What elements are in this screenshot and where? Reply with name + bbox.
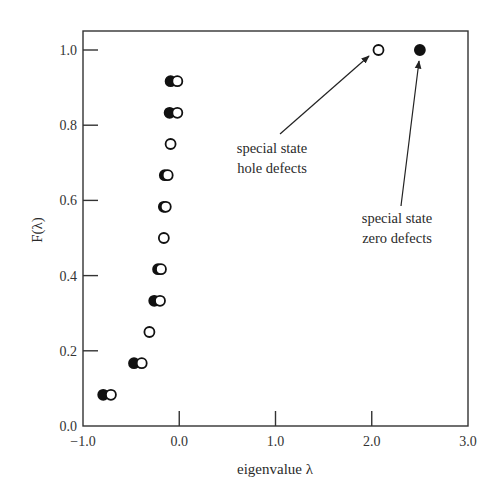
annotations: special statehole defectsspecial stateze… xyxy=(237,56,432,246)
open-point-hole-defects xyxy=(144,327,154,337)
open-point-hole-defects xyxy=(161,202,171,212)
open-point-hole-defects xyxy=(137,358,147,368)
annotation-text: special state xyxy=(237,140,307,156)
open-point-hole-defects xyxy=(172,108,182,118)
y-tick-label: 1.0 xyxy=(60,43,78,58)
annotation-arrow xyxy=(401,61,419,206)
open-point-hole-defects xyxy=(159,233,169,243)
x-axis-title: eigenvalue λ xyxy=(237,461,314,477)
x-tick-label: 2.0 xyxy=(363,434,381,449)
y-axis: 0.00.20.40.60.81.0 xyxy=(60,43,99,434)
filled-point-zero-defects xyxy=(415,45,425,55)
annotation-text: zero defects xyxy=(362,230,432,246)
x-tick-label: 1.0 xyxy=(267,434,285,449)
annotation-arrow xyxy=(280,56,369,134)
y-tick-label: 0.6 xyxy=(60,193,78,208)
x-axis: −1.00.01.02.03.0 xyxy=(70,411,476,449)
x-tick-label: −1.0 xyxy=(70,434,95,449)
y-tick-label: 0.2 xyxy=(60,344,78,359)
y-tick-label: 0.0 xyxy=(60,419,78,434)
y-axis-title: F(λ) xyxy=(29,217,46,243)
open-point-hole-defects xyxy=(155,296,165,306)
open-point-hole-defects xyxy=(106,390,116,400)
open-point-hole-defects xyxy=(163,170,173,180)
y-tick-label: 0.4 xyxy=(60,269,78,284)
open-point-hole-defects xyxy=(373,45,383,55)
annotation-text: hole defects xyxy=(237,160,307,176)
open-point-hole-defects xyxy=(156,264,166,274)
x-tick-label: 0.0 xyxy=(171,434,189,449)
annotation-text: special state xyxy=(362,210,432,226)
open-point-hole-defects xyxy=(172,76,182,86)
eigenvalue-chart: −1.00.01.02.03.0 0.00.20.40.60.81.0 spec… xyxy=(0,0,499,502)
x-tick-label: 3.0 xyxy=(459,434,477,449)
open-point-hole-defects xyxy=(166,139,176,149)
y-tick-label: 0.8 xyxy=(60,118,78,133)
